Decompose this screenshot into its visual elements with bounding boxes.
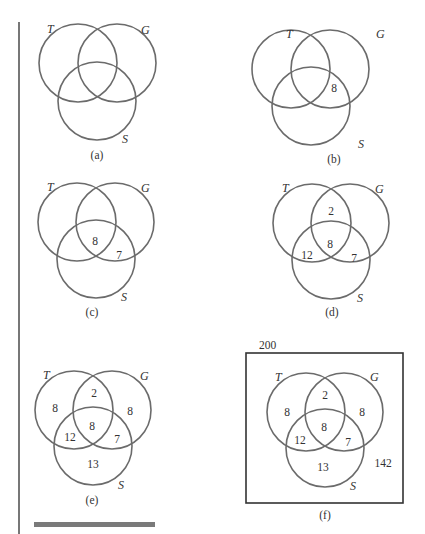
region-TGS: 8 <box>331 82 337 94</box>
region-S: 13 <box>317 461 329 473</box>
circle-S <box>272 67 350 145</box>
caption-b: (b) <box>327 153 341 166</box>
label-G: G <box>141 23 150 37</box>
region-TGS: 8 <box>89 420 95 432</box>
venn-panel-d: T G S 2 8 12 7 (d) <box>273 181 389 319</box>
caption-c: (c) <box>86 306 99 319</box>
caption-f: (f) <box>319 509 331 522</box>
venn-panel-e: T G S 8 2 8 8 12 7 13 (e) <box>35 368 151 507</box>
label-S: S <box>358 137 364 151</box>
region-TS: 12 <box>301 249 313 261</box>
region-T: 8 <box>284 406 290 418</box>
caption-e: (e) <box>86 494 99 507</box>
caption-d: (d) <box>325 306 339 319</box>
region-TG: 2 <box>322 389 328 401</box>
universe-total: 200 <box>259 339 277 351</box>
circle-G <box>305 373 383 451</box>
region-TG: 2 <box>328 205 334 217</box>
region-TG: 2 <box>91 387 97 399</box>
region-GS: 7 <box>345 436 351 448</box>
label-T: T <box>47 180 55 194</box>
region-G: 8 <box>127 405 133 417</box>
region-TS: 12 <box>294 434 306 446</box>
region-GS: 7 <box>114 433 120 445</box>
label-S: S <box>350 479 356 493</box>
venn-panel-b: T G S 8 (b) <box>252 27 385 166</box>
region-T: 8 <box>52 402 58 414</box>
region-GS: 7 <box>116 249 122 261</box>
circle-S <box>54 407 132 485</box>
label-S: S <box>357 291 363 305</box>
label-T: T <box>286 27 294 41</box>
venn-panel-c: T G S 8 7 (c) <box>38 180 154 319</box>
region-S: 13 <box>87 458 99 470</box>
label-T: T <box>47 22 55 36</box>
venn-panel-f: 200 T G S 8 2 8 8 12 7 13 142 (f) <box>246 339 403 522</box>
region-outside: 142 <box>374 457 392 469</box>
region-TGS: 8 <box>92 235 98 247</box>
caption-a: (a) <box>91 149 104 162</box>
circle-T <box>38 183 116 261</box>
label-G: G <box>141 181 150 195</box>
label-G: G <box>376 27 385 41</box>
label-T: T <box>282 181 290 195</box>
label-G: G <box>370 370 379 384</box>
circle-T <box>267 373 345 451</box>
label-S: S <box>122 132 128 146</box>
label-S: S <box>121 290 127 304</box>
region-TGS: 8 <box>327 238 333 250</box>
label-S: S <box>118 478 124 492</box>
region-GS: 7 <box>351 252 357 264</box>
region-TGS: 8 <box>321 421 327 433</box>
region-TS: 12 <box>64 431 76 443</box>
label-G: G <box>140 369 149 383</box>
venn-panel-a: T G S (a) <box>39 22 156 162</box>
circle-S <box>57 220 135 298</box>
region-G: 8 <box>359 406 365 418</box>
label-G: G <box>375 182 384 196</box>
venn-diagrams: T G S (a) T G S 8 (b) T G S 8 7 (c) T G … <box>0 0 425 534</box>
